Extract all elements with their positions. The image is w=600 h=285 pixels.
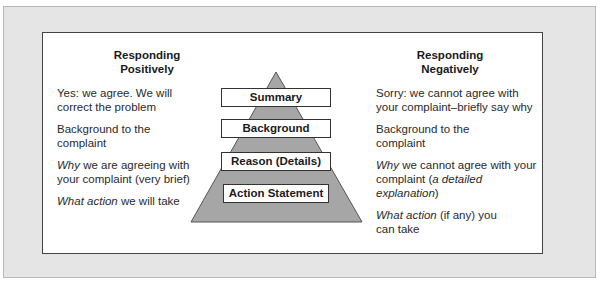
- item-text: complaint (: [376, 173, 432, 185]
- list-item: What action (if any) you can take: [376, 208, 541, 236]
- item-text: Sorry: we cannot agree with: [376, 87, 519, 99]
- heading-line: Negatively: [395, 62, 505, 76]
- pyramid-level-background: Background: [221, 119, 331, 138]
- item-text: can take: [376, 223, 419, 235]
- pyramid-level-reason: Reason (Details): [221, 152, 331, 171]
- heading-responding-negatively: Responding Negatively: [395, 48, 505, 76]
- item-text: ): [435, 187, 439, 199]
- item-text: complaint: [376, 137, 425, 149]
- list-item: Sorry: we cannot agree with your complai…: [376, 86, 541, 114]
- item-emphasis: What action: [376, 209, 437, 221]
- pyramid-level-summary: Summary: [221, 88, 331, 107]
- list-item: Why we cannot agree with your complaint …: [376, 158, 541, 200]
- pyramid-level-action: Action Statement: [223, 184, 329, 203]
- item-text: your complaint–briefly say why: [376, 101, 533, 113]
- item-text: Background to the: [376, 123, 469, 135]
- item-emphasis: Why: [376, 159, 399, 171]
- negative-items: Sorry: we cannot agree with your complai…: [376, 86, 541, 244]
- item-text: we cannot agree with your: [399, 159, 536, 171]
- list-item: Background to the complaint: [376, 122, 541, 150]
- item-text: (if any) you: [437, 209, 497, 221]
- heading-line: Responding: [395, 48, 505, 62]
